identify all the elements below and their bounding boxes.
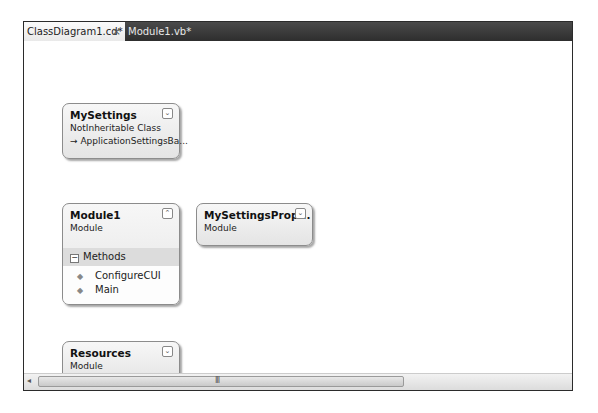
close-tab-icon[interactable]: × bbox=[112, 22, 121, 41]
shape-title: Module1 bbox=[70, 209, 121, 221]
members-list: ◆ConfigureCUI ◆Main bbox=[63, 266, 179, 304]
member-main[interactable]: ◆Main bbox=[77, 284, 119, 295]
collapse-icon[interactable]: ⌃ bbox=[162, 208, 173, 219]
expand-icon[interactable]: ⌄ bbox=[295, 208, 306, 219]
shape-kind: NotInheritable Class bbox=[70, 123, 161, 133]
shape-kind: Module bbox=[70, 223, 103, 233]
scroll-left-icon[interactable]: ◂ bbox=[27, 376, 31, 385]
grip-icon: III bbox=[215, 376, 219, 385]
tab-classdiagram[interactable]: ClassDiagram1.cd* × bbox=[24, 22, 125, 41]
member-configurecui[interactable]: ◆ConfigureCUI bbox=[77, 270, 161, 281]
shape-title: MySettings bbox=[70, 109, 137, 121]
member-name: ConfigureCUI bbox=[95, 270, 161, 281]
diagram-canvas[interactable]: MySettings ⌄ NotInheritable Class → Appl… bbox=[24, 41, 572, 374]
section-label: Methods bbox=[83, 251, 126, 262]
class-diagram-window: ClassDiagram1.cd* × Module1.vb* MySettin… bbox=[23, 21, 573, 391]
expand-icon[interactable]: ⌄ bbox=[162, 346, 173, 357]
tab-label: ClassDiagram1.cd* bbox=[27, 26, 123, 37]
document-tab-bar: ClassDiagram1.cd* × Module1.vb* bbox=[24, 22, 572, 41]
methods-section-header[interactable]: −Methods bbox=[63, 248, 179, 266]
tab-label: Module1.vb* bbox=[128, 26, 191, 37]
inheritance-label: → ApplicationSettingsBa... bbox=[70, 136, 188, 146]
expand-icon[interactable]: ⌄ bbox=[162, 108, 173, 119]
collapse-section-icon[interactable]: − bbox=[70, 254, 79, 263]
shape-kind: Module bbox=[204, 223, 237, 233]
tab-module1[interactable]: Module1.vb* bbox=[128, 22, 191, 41]
scrollbar-thumb[interactable]: III bbox=[38, 376, 404, 387]
method-icon: ◆ bbox=[77, 286, 89, 295]
shape-title: Resources bbox=[70, 347, 131, 359]
member-name: Main bbox=[95, 284, 119, 295]
shape-mysettingsproperty[interactable]: MySettingsProp... ⌄ Module bbox=[196, 203, 313, 246]
shape-module1[interactable]: Module1 ⌃ Module −Methods ◆ConfigureCUI … bbox=[62, 203, 180, 305]
shape-mysettings[interactable]: MySettings ⌄ NotInheritable Class → Appl… bbox=[62, 103, 180, 159]
method-icon: ◆ bbox=[77, 272, 89, 281]
horizontal-scrollbar[interactable]: ◂ III bbox=[24, 373, 572, 390]
shape-kind: Module bbox=[70, 361, 103, 371]
